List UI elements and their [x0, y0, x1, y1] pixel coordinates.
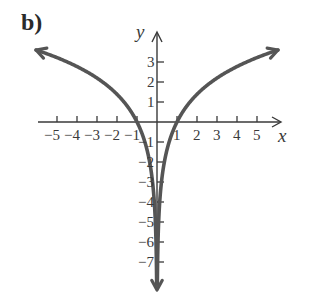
y-tick-label: −7	[138, 254, 154, 270]
x-tick-label: 3	[213, 127, 221, 143]
y-tick-label: −4	[138, 194, 154, 210]
x-axis-label: x	[278, 128, 286, 144]
y-tick-label: −5	[138, 214, 154, 230]
curve-right-branch	[157, 50, 278, 284]
y-tick-label: −1	[138, 134, 154, 150]
x-tick-label: 1	[173, 127, 181, 143]
x-tick-label: −3	[84, 127, 100, 143]
y-tick-label: −6	[138, 234, 154, 250]
x-tick-label: −4	[64, 127, 80, 143]
y-tick-label: 1	[147, 94, 155, 110]
y-tick-label: −2	[138, 154, 154, 170]
y-tick-label: −3	[138, 174, 154, 190]
y-tick-label: 3	[147, 54, 155, 70]
x-tick-label: 5	[253, 127, 261, 143]
x-tick-label: −5	[44, 127, 60, 143]
y-axis-label: y	[136, 24, 144, 40]
y-tick-label: 2	[147, 74, 155, 90]
x-tick-label: 2	[193, 127, 201, 143]
x-tick-label: −2	[104, 127, 120, 143]
part-label: b)	[21, 10, 42, 34]
x-tick-label: 4	[233, 127, 241, 143]
